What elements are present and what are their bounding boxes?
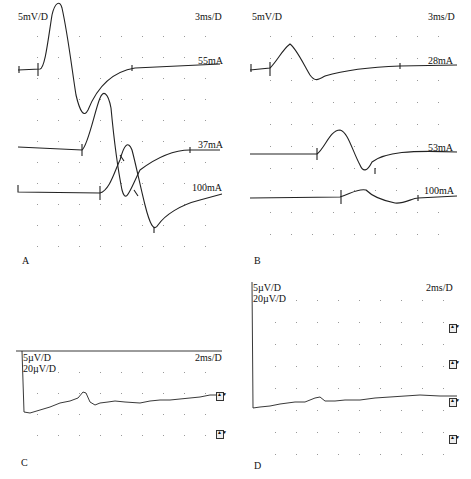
cursor-marker-icon[interactable]: ▲▼ [216,392,224,401]
trace-label: 55mA [198,56,223,66]
panel-label: B [254,255,261,266]
panel-label: C [21,457,28,468]
cursor-marker-icon[interactable]: ▲▼ [449,398,457,407]
gain-label: 5mV/D [18,12,48,22]
trace-label: 100mA [192,183,222,193]
sweep-label: 3ms/D [428,12,455,22]
trace-label: 37mA [198,140,223,150]
waveform-canvas [0,0,471,479]
panel-b-traces [250,44,457,204]
sweep-label: 3ms/D [195,12,222,22]
panel-label: A [22,255,29,266]
gain-label: 5µV/D [253,283,281,293]
cursor-marker-icon[interactable]: ▲▼ [216,430,224,439]
sweep-label: 2ms/D [195,353,222,363]
gain-label: 20µV/D [23,364,56,374]
cursor-marker-icon[interactable]: ▲▼ [449,360,457,369]
panel-a-traces [18,3,222,233]
cursor-marker-icon[interactable]: ▲▼ [449,435,457,444]
gain-label: 5µV/D [23,353,51,363]
trace-label: 53mA [428,143,453,153]
gain-label: 20µV/D [253,294,286,304]
trace-label: 100mA [424,186,454,196]
trace-label: 28mA [428,56,453,66]
gain-label: 5mV/D [252,12,282,22]
panel-label: D [254,460,261,471]
cursor-marker-icon[interactable]: ▲▼ [449,324,457,333]
sweep-label: 2ms/D [426,283,453,293]
